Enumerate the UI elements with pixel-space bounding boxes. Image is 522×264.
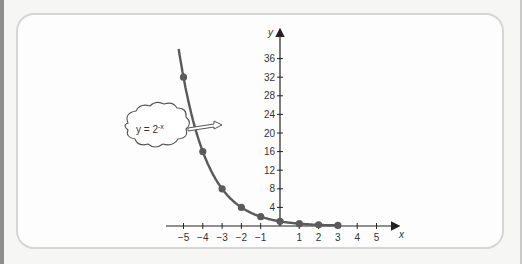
- data-point: [257, 213, 264, 220]
- x-tick-label: −2: [236, 232, 248, 243]
- y-tick-label: 20: [264, 128, 276, 139]
- x-tick-label: −5: [178, 232, 190, 243]
- function-curve: [179, 49, 338, 225]
- x-tick-label: 3: [335, 232, 341, 243]
- data-point: [180, 74, 187, 81]
- x-tick-label: 2: [316, 232, 322, 243]
- x-tick-label: −3: [216, 232, 228, 243]
- y-axis-ticks: 4812162024283236: [264, 53, 283, 213]
- exponential-decay-chart: −5−4−3−2−112345 4812162024283236 x y y =…: [0, 0, 522, 264]
- y-tick-label: 36: [264, 53, 276, 64]
- x-tick-label: 4: [354, 232, 360, 243]
- x-tick-label: 1: [297, 232, 303, 243]
- x-tick-label: −1: [255, 232, 267, 243]
- data-points: [180, 74, 342, 229]
- y-tick-label: 24: [264, 109, 276, 120]
- data-point: [296, 220, 303, 227]
- x-axis-label: x: [398, 229, 405, 240]
- x-tick-label: −4: [197, 232, 209, 243]
- y-tick-label: 8: [269, 183, 275, 194]
- y-tick-label: 28: [264, 90, 276, 101]
- x-tick-label: 5: [374, 232, 380, 243]
- data-point: [334, 222, 341, 229]
- callout-text: y = 2: [136, 124, 158, 135]
- y-axis-label: y: [267, 27, 274, 38]
- y-tick-label: 12: [264, 165, 276, 176]
- data-point: [315, 221, 322, 228]
- y-tick-label: 16: [264, 146, 276, 157]
- data-point: [276, 218, 283, 225]
- y-tick-label: 4: [269, 202, 275, 213]
- data-point: [238, 204, 245, 211]
- y-tick-label: 32: [264, 72, 276, 83]
- data-point: [199, 148, 206, 155]
- function-label-callout: y = 2-x: [125, 102, 222, 147]
- data-point: [219, 185, 226, 192]
- callout-exponent: -x: [158, 123, 164, 130]
